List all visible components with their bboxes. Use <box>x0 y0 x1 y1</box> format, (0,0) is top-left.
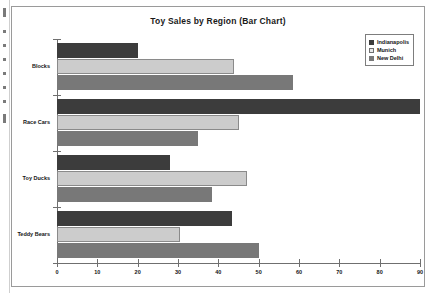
x-axis-tick-label: 30 <box>166 269 190 275</box>
x-axis-tick-label: 50 <box>247 269 271 275</box>
y-axis-tick <box>53 39 61 40</box>
bar[interactable] <box>57 211 232 226</box>
bar[interactable] <box>57 171 247 186</box>
x-axis-tick-label: 0 <box>45 269 69 275</box>
x-axis-tick-label: 20 <box>126 269 150 275</box>
clipped-left-panel <box>0 0 11 293</box>
plot-area: Blocks Race Cars Toy Ducks Teddy Bears <box>57 39 420 263</box>
bar[interactable] <box>57 131 198 146</box>
bar[interactable] <box>57 227 180 242</box>
x-axis-tick-label: 70 <box>327 269 351 275</box>
x-axis-tick <box>218 259 219 267</box>
x-axis-tick <box>420 259 421 267</box>
x-axis-tick <box>380 259 381 267</box>
y-axis-tick-label: Race Cars <box>0 115 50 130</box>
chart-title: Toy Sales by Region (Bar Chart) <box>12 16 424 26</box>
bar[interactable] <box>57 43 138 58</box>
y-axis-tick <box>53 95 61 96</box>
category-group-toy-ducks: Toy Ducks <box>57 151 420 207</box>
y-axis-tick-label: Toy Ducks <box>0 171 50 186</box>
x-axis-tick <box>299 259 300 267</box>
x-axis-tick-label: 40 <box>206 269 230 275</box>
panel-divider <box>9 0 10 293</box>
category-group-blocks: Blocks <box>57 39 420 95</box>
y-axis-tick <box>53 151 61 152</box>
x-axis-tick <box>97 259 98 267</box>
x-axis-tick-label: 10 <box>85 269 109 275</box>
x-axis-tick-label: 90 <box>408 269 432 275</box>
category-group-teddy-bears: Teddy Bears <box>57 207 420 263</box>
x-axis-tick <box>138 259 139 267</box>
x-axis-tick <box>178 259 179 267</box>
bar[interactable] <box>57 115 239 130</box>
y-axis-tick-label: Blocks <box>0 59 50 74</box>
bar[interactable] <box>57 99 420 114</box>
x-axis-tick <box>57 259 58 267</box>
category-group-race-cars: Race Cars <box>57 95 420 151</box>
bar[interactable] <box>57 59 234 74</box>
x-axis-tick <box>259 259 260 267</box>
x-axis-tick <box>339 259 340 267</box>
y-axis-tick-label: Teddy Bears <box>0 227 50 242</box>
bar[interactable] <box>57 75 293 90</box>
bar[interactable] <box>57 155 170 170</box>
bar[interactable] <box>57 243 259 258</box>
chart-container: Toy Sales by Region (Bar Chart) Indianap… <box>11 6 425 287</box>
x-axis-line <box>57 263 421 264</box>
x-axis-tick-label: 60 <box>287 269 311 275</box>
y-axis-tick <box>53 207 61 208</box>
bar[interactable] <box>57 187 212 202</box>
x-axis-tick-label: 80 <box>368 269 392 275</box>
